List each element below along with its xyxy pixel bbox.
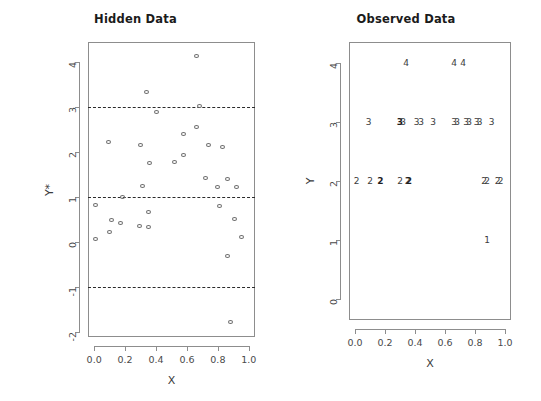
x-tick [218, 346, 219, 351]
data-point [194, 125, 199, 129]
y-axis-title-hidden: Y* [43, 183, 56, 195]
data-digit-mark: 2 [354, 176, 360, 186]
data-point [146, 225, 151, 229]
data-digit-mark: 2 [498, 176, 504, 186]
x-tick-label: 0.8 [467, 337, 482, 348]
x-axis-line [94, 346, 249, 347]
x-tick-label: 1.0 [241, 354, 256, 365]
data-digit-mark: 1 [484, 235, 490, 245]
data-point [225, 177, 230, 181]
x-tick-label: 0.0 [347, 337, 362, 348]
x-tick-label: 0.4 [407, 337, 422, 348]
data-digit-mark: 3 [400, 117, 406, 127]
y-tick-label: 3 [328, 122, 339, 128]
panel-hidden-data: Hidden Data 43210-1-20.00.20.40.60.81.0 … [0, 0, 271, 401]
x-tick [125, 346, 126, 351]
data-digit-mark: 3 [366, 117, 372, 127]
plot-frame-hidden [88, 42, 255, 337]
y-tick-label: -1 [67, 287, 78, 296]
x-tick-label: 0.0 [87, 354, 102, 365]
x-tick-label: 0.4 [148, 354, 163, 365]
reference-line [88, 107, 255, 108]
x-tick-label: 0.6 [179, 354, 194, 365]
x-tick-label: 0.2 [377, 337, 392, 348]
x-tick [187, 346, 188, 351]
data-point [140, 184, 145, 188]
data-point [225, 254, 230, 258]
x-tick-label: 0.6 [437, 337, 452, 348]
reference-line [88, 287, 255, 288]
figure-canvas: Hidden Data 43210-1-20.00.20.40.60.81.0 … [0, 0, 541, 401]
x-tick [415, 329, 416, 334]
data-point [146, 210, 151, 214]
x-tick [94, 346, 95, 351]
data-digit-mark: 2 [484, 176, 490, 186]
x-tick [355, 329, 356, 334]
data-point [203, 176, 208, 180]
y-tick-label: 0 [328, 299, 339, 305]
x-tick [249, 346, 250, 351]
x-axis-title-hidden: X [168, 374, 176, 387]
y-tick-label: 3 [67, 107, 78, 113]
data-point [137, 224, 142, 228]
data-digit-mark: 3 [489, 117, 495, 127]
data-point [215, 185, 220, 189]
data-digit-mark: 4 [403, 58, 409, 68]
x-axis-line [355, 329, 505, 330]
data-digit-mark: 3 [418, 117, 424, 127]
x-tick [156, 346, 157, 351]
data-point [109, 218, 114, 222]
data-digit-mark: 2 [377, 176, 383, 186]
data-digit-mark: 2 [397, 176, 403, 186]
data-digit-mark: 3 [477, 117, 483, 127]
data-point [154, 110, 159, 114]
data-digit-mark: 3 [454, 117, 460, 127]
x-tick-label: 1.0 [497, 337, 512, 348]
y-tick-label: -2 [67, 332, 78, 341]
data-digit-mark: 4 [451, 58, 457, 68]
panel-title-observed: Observed Data [271, 12, 541, 26]
x-tick-label: 0.8 [210, 354, 225, 365]
data-point [118, 221, 123, 225]
data-point [172, 160, 177, 164]
y-tick-label: 1 [67, 197, 78, 203]
panel-observed-data: Observed Data 44433333333333332222222222… [271, 0, 541, 401]
x-tick-label: 0.2 [118, 354, 133, 365]
x-tick [385, 329, 386, 334]
reference-line [88, 197, 255, 198]
data-point [106, 140, 111, 144]
data-digit-mark: 2 [367, 176, 373, 186]
y-tick-label: 0 [67, 242, 78, 248]
data-digit-mark: 3 [430, 117, 436, 127]
data-digit-mark: 2 [406, 176, 412, 186]
panel-title-hidden: Hidden Data [0, 12, 271, 26]
y-tick-label: 2 [328, 181, 339, 187]
y-tick-label: 4 [328, 63, 339, 69]
data-point [228, 320, 233, 324]
y-axis-title-observed: Y [304, 178, 317, 185]
y-tick-label: 2 [67, 152, 78, 158]
x-axis-title-observed: X [426, 357, 434, 370]
y-tick-label: 4 [67, 62, 78, 68]
data-digit-mark: 4 [460, 58, 466, 68]
y-tick-label: 1 [328, 240, 339, 246]
data-point [181, 153, 186, 157]
x-tick [505, 329, 506, 334]
data-point [220, 145, 225, 149]
data-digit-mark: 3 [466, 117, 472, 127]
x-tick [475, 329, 476, 334]
x-tick [445, 329, 446, 334]
